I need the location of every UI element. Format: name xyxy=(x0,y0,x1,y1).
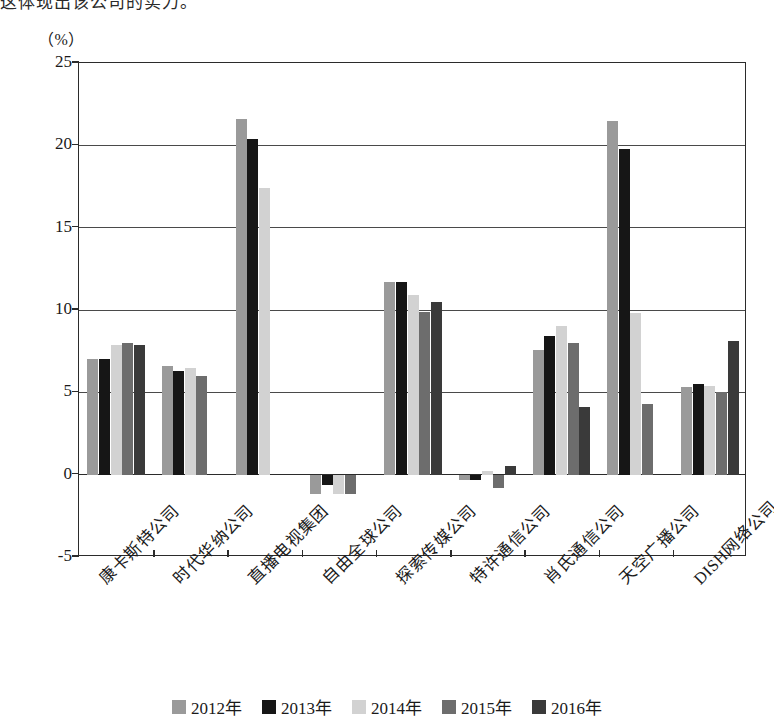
bar xyxy=(333,475,344,495)
bar xyxy=(431,302,442,475)
bar xyxy=(111,345,122,475)
legend-swatch-icon xyxy=(172,700,186,714)
plot-area xyxy=(78,62,746,556)
legend-swatch-icon xyxy=(262,700,276,714)
bar xyxy=(681,387,692,474)
bar xyxy=(607,121,618,475)
chart-page: 这体现出该公司的实力。 （%） 2520151050-5 康卡斯特公司时代华纳公… xyxy=(0,0,774,728)
legend-label: 2013年 xyxy=(281,694,332,719)
bar xyxy=(322,475,333,485)
bar xyxy=(99,359,110,474)
bar xyxy=(236,119,247,475)
bar xyxy=(544,336,555,474)
legend-item[interactable]: 2015年 xyxy=(442,694,512,719)
bar xyxy=(693,384,704,475)
bar xyxy=(482,471,493,474)
bar xyxy=(185,368,196,475)
x-axis-labels: 康卡斯特公司时代华纳公司直播电视集团自由全球公司探索传媒公司特许通信公司肖氏通信… xyxy=(0,556,774,686)
y-tick-label: 10 xyxy=(26,299,72,319)
y-tick-label: 0 xyxy=(26,464,72,484)
y-axis: 2520151050-5 xyxy=(20,62,72,556)
legend-swatch-icon xyxy=(442,700,456,714)
legend-item[interactable]: 2016年 xyxy=(532,694,602,719)
bar xyxy=(716,392,727,474)
bar xyxy=(173,371,184,475)
bar xyxy=(642,404,653,475)
chart-legend: 2012年2013年2014年2015年2016年 xyxy=(0,694,774,719)
legend-swatch-icon xyxy=(352,700,366,714)
y-tick-label: 25 xyxy=(26,52,72,72)
bar xyxy=(630,313,641,474)
gridline-15 xyxy=(79,227,745,228)
bar xyxy=(728,341,739,474)
legend-label: 2015年 xyxy=(461,694,512,719)
bar xyxy=(122,343,133,475)
bar xyxy=(134,345,145,474)
legend-item[interactable]: 2014年 xyxy=(352,694,422,719)
bar xyxy=(408,295,419,474)
bar xyxy=(568,343,579,475)
bar xyxy=(505,466,516,474)
bar xyxy=(162,366,173,475)
bar xyxy=(196,376,207,475)
legend-item[interactable]: 2013年 xyxy=(262,694,332,719)
bar xyxy=(493,475,504,488)
y-tick-label: 15 xyxy=(26,217,72,237)
legend-label: 2014年 xyxy=(371,694,422,719)
gridline-20 xyxy=(79,145,745,146)
bar xyxy=(579,407,590,475)
bar xyxy=(556,326,567,474)
bar xyxy=(533,350,544,475)
bar xyxy=(419,312,430,475)
legend-label: 2012年 xyxy=(191,694,242,719)
bar xyxy=(619,149,630,475)
bar xyxy=(345,475,356,495)
bar xyxy=(459,475,470,480)
bar xyxy=(396,282,407,475)
bar xyxy=(384,282,395,475)
bar xyxy=(259,188,270,475)
y-axis-unit-label: （%） xyxy=(38,26,85,50)
bar xyxy=(310,475,321,495)
legend-label: 2016年 xyxy=(551,694,602,719)
bar xyxy=(87,359,98,474)
cut-off-heading: 这体现出该公司的实力。 xyxy=(0,0,300,10)
bar xyxy=(247,139,258,475)
bar xyxy=(704,386,715,475)
bar xyxy=(470,475,481,480)
legend-item[interactable]: 2012年 xyxy=(172,694,242,719)
y-tick-label: 5 xyxy=(26,381,72,401)
y-tick-label: 20 xyxy=(26,134,72,154)
legend-swatch-icon xyxy=(532,700,546,714)
